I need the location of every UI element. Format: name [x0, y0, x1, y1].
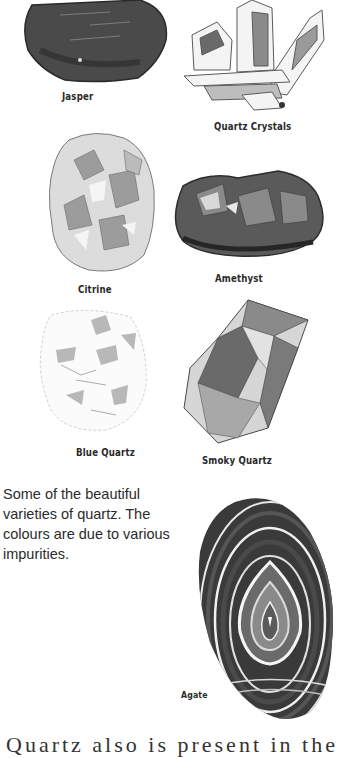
smoky-quartz-illustration: [178, 298, 313, 448]
citrine-label: Citrine: [78, 283, 112, 295]
agate-label: Agate: [181, 689, 208, 700]
smoky-quartz-label: Smoky Quartz: [202, 454, 272, 466]
figure-caption: Some of the beautiful varieties of quart…: [3, 484, 173, 564]
amethyst-label: Amethyst: [215, 272, 263, 284]
blue-quartz-illustration: [36, 305, 151, 433]
quartz-crystals-illustration: [182, 0, 330, 112]
quartz-crystals-label: Quartz Crystals: [214, 120, 291, 132]
jasper-illustration: [20, 0, 170, 85]
agate-illustration: [190, 492, 340, 724]
citrine-illustration: [44, 130, 162, 275]
blue-quartz-label: Blue Quartz: [76, 446, 135, 458]
amethyst-illustration: [168, 166, 330, 262]
jasper-label: Jasper: [62, 90, 93, 102]
cut-off-text-line: Quartz also is present in the: [6, 732, 338, 758]
